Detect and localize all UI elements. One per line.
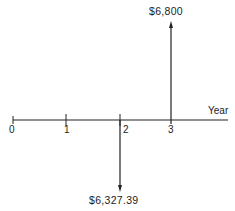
outflow-amount-label: $6,327.39 <box>89 195 138 205</box>
axis-label-year: Year <box>208 106 228 116</box>
tick-label-2: 2 <box>123 125 129 135</box>
inflow-amount-label: $6,800 <box>149 6 183 16</box>
tick-label-3: 3 <box>168 125 174 135</box>
cash-flow-diagram <box>0 0 235 211</box>
inflow-arrowhead-icon <box>169 21 173 28</box>
tick-label-1: 1 <box>64 125 70 135</box>
tick-label-0: 0 <box>9 125 15 135</box>
outflow-arrowhead-icon <box>118 185 122 192</box>
